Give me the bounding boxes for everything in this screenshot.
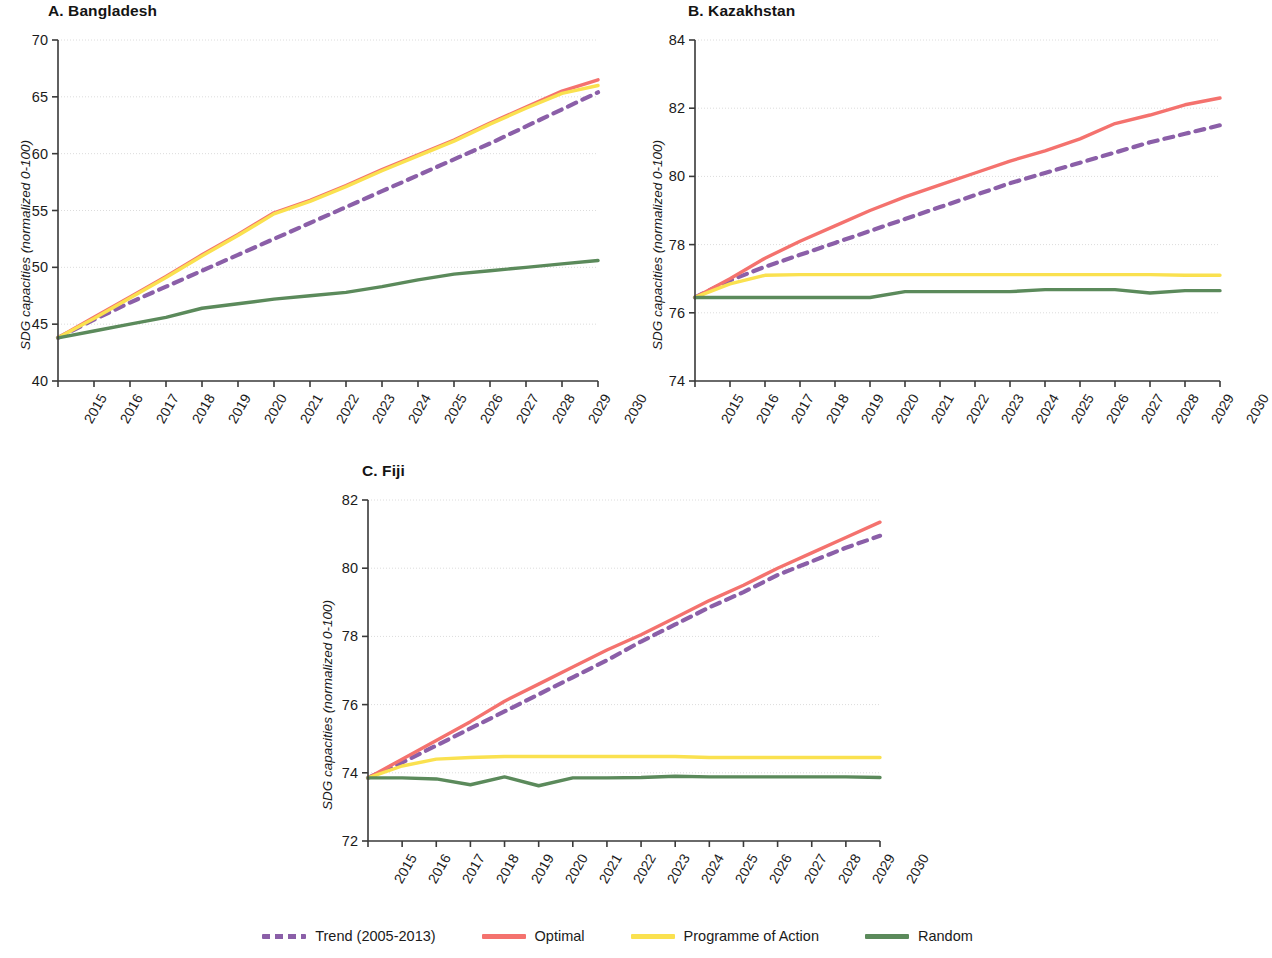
x-tick-label: 2030 xyxy=(1243,391,1272,426)
legend-item-programme-of-action: Programme of Action xyxy=(631,928,819,944)
x-tick-label: 2022 xyxy=(963,391,992,426)
series-line-programme-of-action xyxy=(368,756,880,777)
series-line-trend-2005-2013 xyxy=(368,536,880,778)
legend-item-trend: Trend (2005-2013) xyxy=(262,928,435,944)
plot-area-bangladesh xyxy=(58,40,598,381)
panel-title-b: B. Kazakhstan xyxy=(688,2,795,20)
y-tick-label: 76 xyxy=(639,305,685,321)
x-tick-label: 2026 xyxy=(766,851,795,886)
chart-panel-bangladesh: A. Bangladesh SDG capacities (normalized… xyxy=(0,0,620,440)
legend-swatch-optimal xyxy=(482,934,526,939)
x-tick-label: 2027 xyxy=(800,851,829,886)
x-tick-label: 2028 xyxy=(1173,391,1202,426)
panel-title-a: A. Bangladesh xyxy=(48,2,157,20)
x-tick-label: 2022 xyxy=(333,391,362,426)
x-tick-label: 2016 xyxy=(753,391,782,426)
x-tick-label: 2021 xyxy=(297,391,326,426)
x-tick-label: 2025 xyxy=(1068,391,1097,426)
legend-swatch-programme-of-action xyxy=(631,934,675,939)
x-tick-label: 2018 xyxy=(823,391,852,426)
y-tick-label: 50 xyxy=(2,259,48,275)
chart-canvas-B xyxy=(695,40,1220,381)
x-tick-label: 2025 xyxy=(732,851,761,886)
x-tick-label: 2028 xyxy=(549,391,578,426)
y-tick-label: 70 xyxy=(2,32,48,48)
y-tick-label: 60 xyxy=(2,146,48,162)
x-tick-label: 2026 xyxy=(1103,391,1132,426)
x-tick-label: 2015 xyxy=(718,391,747,426)
legend-label-trend: Trend (2005-2013) xyxy=(315,928,435,944)
x-tick-label: 2019 xyxy=(527,851,556,886)
y-tick-label: 78 xyxy=(312,628,358,644)
legend-item-optimal: Optimal xyxy=(482,928,585,944)
y-tick-label: 55 xyxy=(2,203,48,219)
y-tick-label: 65 xyxy=(2,89,48,105)
x-tick-label: 2025 xyxy=(441,391,470,426)
y-tick-label: 74 xyxy=(639,373,685,389)
x-tick-label: 2029 xyxy=(1208,391,1237,426)
legend-item-random: Random xyxy=(865,928,973,944)
y-tick-label: 80 xyxy=(639,168,685,184)
x-tick-label: 2015 xyxy=(391,851,420,886)
y-tick-label: 82 xyxy=(639,100,685,116)
x-tick-label: 2019 xyxy=(225,391,254,426)
x-tick-label: 2020 xyxy=(561,851,590,886)
chart-canvas-C xyxy=(368,500,880,841)
x-tick-label: 2017 xyxy=(459,851,488,886)
x-tick-label: 2019 xyxy=(858,391,887,426)
chart-canvas-A xyxy=(58,40,598,381)
x-tick-label: 2028 xyxy=(834,851,863,886)
legend-swatch-random xyxy=(865,934,909,939)
panel-title-c: C. Fiji xyxy=(362,462,405,480)
x-tick-label: 2020 xyxy=(261,391,290,426)
x-tick-label: 2023 xyxy=(664,851,693,886)
x-tick-label: 2026 xyxy=(477,391,506,426)
x-tick-label: 2023 xyxy=(369,391,398,426)
y-tick-label: 84 xyxy=(639,32,685,48)
chart-panel-kazakhstan: B. Kazakhstan SDG capacities (normalized… xyxy=(620,0,1235,440)
series-line-trend-2005-2013 xyxy=(58,92,598,338)
y-tick-label: 74 xyxy=(312,765,358,781)
chart-legend: Trend (2005-2013)OptimalProgramme of Act… xyxy=(0,928,1235,944)
legend-swatch-trend xyxy=(262,934,306,939)
x-tick-label: 2027 xyxy=(513,391,542,426)
x-tick-label: 2017 xyxy=(153,391,182,426)
x-tick-label: 2024 xyxy=(698,851,727,886)
y-tick-label: 72 xyxy=(312,833,358,849)
x-tick-label: 2017 xyxy=(788,391,817,426)
series-line-random xyxy=(368,776,880,786)
legend-label-optimal: Optimal xyxy=(535,928,585,944)
x-tick-label: 2029 xyxy=(585,391,614,426)
x-tick-label: 2023 xyxy=(998,391,1027,426)
y-tick-label: 80 xyxy=(312,560,358,576)
chart-panel-fiji: C. Fiji SDG capacities (normalized 0-100… xyxy=(300,460,920,900)
series-line-random xyxy=(695,290,1220,298)
legend-label-programme-of-action: Programme of Action xyxy=(684,928,819,944)
x-tick-label: 2016 xyxy=(117,391,146,426)
x-tick-label: 2021 xyxy=(928,391,957,426)
y-tick-label: 45 xyxy=(2,316,48,332)
series-line-optimal xyxy=(695,98,1220,297)
x-tick-label: 2030 xyxy=(903,851,932,886)
x-tick-label: 2018 xyxy=(493,851,522,886)
x-tick-label: 2029 xyxy=(868,851,897,886)
y-tick-label: 82 xyxy=(312,492,358,508)
y-tick-label: 40 xyxy=(2,373,48,389)
x-tick-label: 2021 xyxy=(595,851,624,886)
legend-label-random: Random xyxy=(918,928,973,944)
x-tick-label: 2024 xyxy=(405,391,434,426)
x-tick-label: 2016 xyxy=(425,851,454,886)
plot-area-fiji xyxy=(368,500,880,841)
x-tick-label: 2024 xyxy=(1033,391,1062,426)
series-line-trend-2005-2013 xyxy=(695,125,1220,297)
y-tick-label: 78 xyxy=(639,237,685,253)
x-tick-label: 2020 xyxy=(893,391,922,426)
x-tick-label: 2015 xyxy=(81,391,110,426)
x-tick-label: 2018 xyxy=(189,391,218,426)
series-line-programme-of-action xyxy=(695,275,1220,298)
x-tick-label: 2027 xyxy=(1138,391,1167,426)
plot-area-kazakhstan xyxy=(695,40,1220,381)
y-tick-label: 76 xyxy=(312,697,358,713)
x-tick-label: 2022 xyxy=(630,851,659,886)
